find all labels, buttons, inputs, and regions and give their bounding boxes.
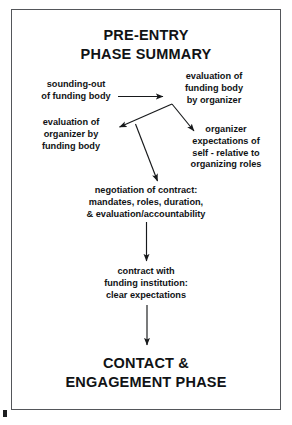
node-sounding-out: sounding-out of funding body [26,79,126,103]
node-contract-with-funding-institution: contract with funding institution: clear… [76,266,216,301]
diagram-footer-heading: CONTACT & ENGAGEMENT PHASE [26,354,266,393]
scan-artifact-mark [3,410,7,417]
node-negotiation-of-contract: negotiation of contract: mandates, roles… [48,185,244,220]
diagram-canvas: PRE-ENTRY PHASE SUMMARY sounding-out of … [0,0,292,425]
node-evaluation-of-organizer: evaluation of organizer by funding body [24,117,118,152]
diagram-title: PRE-ENTRY PHASE SUMMARY [26,26,266,65]
node-evaluation-of-funding-body: evaluation of funding body by organizer [168,71,260,106]
node-organizer-expectations: organizer expectations of self - relativ… [178,124,274,171]
